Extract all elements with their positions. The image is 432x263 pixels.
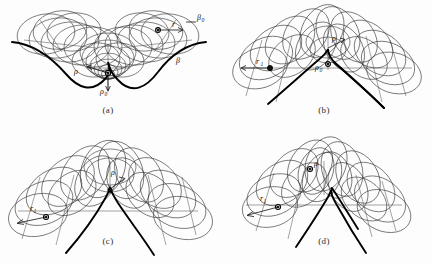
label-rho0-a: ρ — [99, 87, 104, 96]
figure-root: ρ ρ 0 r β 0 β (a) — [0, 0, 432, 263]
label-rho-a: ρ — [73, 67, 78, 76]
panel-d-radius-arrows — [247, 207, 278, 217]
panel-a: ρ ρ 0 r β 0 β (a) — [0, 0, 216, 131]
label-beta0-a: β — [196, 13, 201, 22]
label-rho-d: ρ — [313, 159, 318, 168]
label-r1-b: r — [256, 57, 260, 66]
label-r1-b-sub: 1 — [260, 61, 263, 67]
caption-a: (a) — [0, 105, 216, 115]
panel-d-circle-family — [238, 131, 417, 241]
caption-b: (b) — [216, 105, 432, 115]
label-rho0-a-sub: 0 — [104, 91, 107, 97]
label-r1-c-sub: 1 — [34, 208, 37, 214]
panel-d: r 1 ρ (d) — [216, 131, 432, 262]
label-rho0-b-sub: 0 — [319, 67, 322, 73]
label-beta-a: β — [175, 56, 180, 65]
panel-b: r 1 ρ ρ 0 (b) — [216, 0, 432, 131]
panel-c: r 1 ρ (c) — [0, 131, 216, 262]
label-rho-c: ρ — [110, 168, 115, 177]
caption-d: (d) — [216, 236, 432, 246]
label-r1-d-sub: 1 — [263, 198, 266, 204]
label-beta0-a-sub: 0 — [202, 17, 205, 23]
label-rho0-b: ρ — [314, 63, 319, 72]
panel-a-envelope — [12, 42, 206, 88]
label-rho-b: ρ — [331, 34, 336, 43]
caption-c: (c) — [0, 236, 216, 246]
panel-a-markers — [105, 28, 160, 76]
